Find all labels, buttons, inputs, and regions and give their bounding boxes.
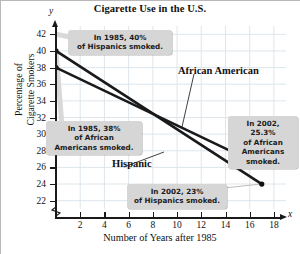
- x-tick: [80, 212, 81, 218]
- x-tick: [177, 212, 178, 218]
- data-point-hispanic-2002: [259, 181, 264, 186]
- x-tick: [104, 212, 105, 218]
- x-axis-title: Number of Years after 1985: [40, 232, 280, 243]
- x-tick: [201, 212, 202, 218]
- y-tick: [50, 184, 56, 185]
- x-tick-label: 2: [71, 220, 89, 230]
- y-tick: [50, 51, 56, 52]
- y-tick-label: 22: [24, 196, 46, 206]
- leader-afam-1985: [56, 51, 62, 126]
- y-axis-arrow-icon: [52, 20, 58, 27]
- annotation-callout-african-american-1985: In 1985, 38% of African Americans smoked…: [46, 121, 142, 155]
- annotation-callout-hispanic-2002: In 2002, 23% of Hispanics smoked.: [127, 184, 227, 209]
- y-axis-break-icon: [51, 203, 63, 216]
- x-tick-label: 8: [144, 220, 162, 230]
- x-tick-label: 4: [95, 220, 113, 230]
- y-tick-label: 24: [24, 179, 46, 189]
- chart-title: Cigarette Use in the U.S.: [0, 3, 300, 14]
- x-axis-line: [55, 217, 281, 219]
- y-tick: [50, 101, 56, 102]
- series-label-african-american: African American: [178, 65, 259, 76]
- annotation-callout-african-american-2002: In 2002, 25.3% of African Americans smok…: [228, 116, 298, 169]
- series-label-hispanic: Hispanic: [112, 158, 152, 169]
- chart-figure: Cigarette Use in the U.S.: [0, 0, 300, 254]
- y-tick: [50, 84, 56, 85]
- y-tick: [50, 118, 56, 119]
- y-tick: [50, 167, 56, 168]
- annotation-callout-hispanic-1985: In 1985, 40% of Hispanics smoked.: [68, 30, 172, 55]
- x-tick: [129, 212, 130, 218]
- x-tick: [226, 212, 227, 218]
- x-tick-label: 18: [265, 220, 283, 230]
- x-axis-variable: x: [288, 209, 292, 219]
- x-tick-label: 6: [120, 220, 138, 230]
- x-tick: [274, 212, 275, 218]
- x-tick-label: 14: [217, 220, 235, 230]
- x-tick-label: 10: [168, 220, 186, 230]
- x-tick-label: 12: [192, 220, 210, 230]
- y-tick-label: 26: [24, 162, 46, 172]
- y-axis-variable: y: [49, 6, 53, 16]
- y-tick: [50, 68, 56, 69]
- y-tick: [50, 34, 56, 35]
- y-tick: [50, 201, 56, 202]
- y-axis-title: Percentage of Cigarette Smokers: [13, 25, 36, 155]
- x-tick: [250, 212, 251, 218]
- x-tick-label: 16: [241, 220, 259, 230]
- x-tick: [153, 212, 154, 218]
